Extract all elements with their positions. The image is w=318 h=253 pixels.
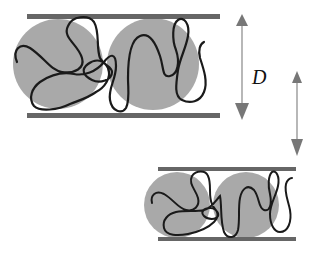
wide-gap-panel	[13, 14, 220, 118]
right-particle	[107, 18, 199, 110]
top-plate	[27, 14, 220, 19]
bottom-plate	[27, 113, 220, 118]
diagram-canvas: D	[0, 0, 318, 253]
arrow-head-down-icon	[235, 103, 249, 120]
confinement-diagram: D	[0, 0, 318, 253]
narrow-gap-panel	[144, 167, 296, 241]
arrow-head-up-icon	[292, 71, 302, 83]
arrow-head-down-icon	[291, 139, 303, 156]
arrow-head-up-icon	[236, 14, 248, 26]
top-plate	[158, 167, 296, 171]
distance-label: D	[251, 66, 267, 88]
distance-arrows: D	[235, 14, 303, 156]
bottom-plate	[158, 237, 296, 241]
